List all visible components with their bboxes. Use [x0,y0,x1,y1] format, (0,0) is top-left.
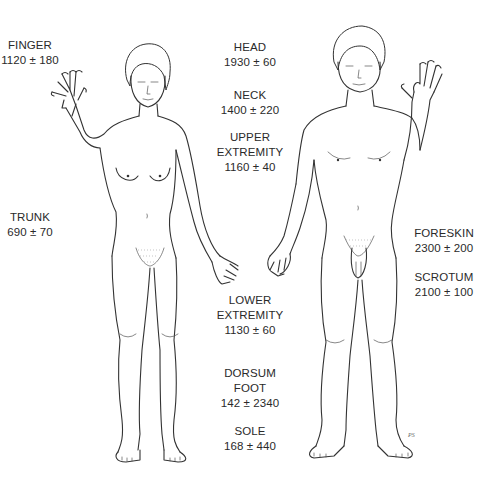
label-lower-extremity-line2: EXTREMITY [217,308,284,323]
label-scrotum-value: 2100 ± 100 [415,285,474,300]
label-neck: NECK 1400 ± 220 [221,88,279,118]
illustrator-signature: PS [408,432,415,438]
label-upper-extremity-line2: EXTREMITY [217,145,284,160]
label-lower-extremity: LOWER EXTREMITY 1130 ± 60 [217,293,284,338]
label-head-name: HEAD [224,40,276,55]
label-finger: FINGER 1120 ± 180 [1,38,59,68]
label-sole-name: SOLE [224,424,276,439]
label-dorsum-foot-line1: DORSUM [221,366,279,381]
label-neck-name: NECK [221,88,279,103]
label-foreskin-name: FORESKIN [414,226,474,241]
label-trunk-name: TRUNK [7,210,52,225]
label-dorsum-foot-value: 142 ± 2340 [221,396,279,411]
label-trunk: TRUNK 690 ± 70 [7,210,52,240]
label-upper-extremity-line1: UPPER [217,130,284,145]
label-scrotum: SCROTUM 2100 ± 100 [415,270,474,300]
label-upper-extremity: UPPER EXTREMITY 1160 ± 40 [217,130,284,175]
label-dorsum-foot-line2: FOOT [221,381,279,396]
label-sole: SOLE 168 ± 440 [224,424,276,454]
female-figure [51,44,238,462]
label-trunk-value: 690 ± 70 [7,225,52,240]
label-neck-value: 1400 ± 220 [221,103,279,118]
label-finger-value: 1120 ± 180 [1,53,59,68]
label-foreskin: FORESKIN 2300 ± 200 [414,226,474,256]
label-dorsum-foot: DORSUM FOOT 142 ± 2340 [221,366,279,411]
label-head: HEAD 1930 ± 60 [224,40,276,70]
label-upper-extremity-value: 1160 ± 40 [217,160,284,175]
label-foreskin-value: 2300 ± 200 [414,241,474,256]
label-sole-value: 168 ± 440 [224,439,276,454]
label-scrotum-name: SCROTUM [415,270,474,285]
label-lower-extremity-value: 1130 ± 60 [217,323,284,338]
label-lower-extremity-line1: LOWER [217,293,284,308]
label-finger-name: FINGER [1,38,59,53]
label-head-value: 1930 ± 60 [224,55,276,70]
